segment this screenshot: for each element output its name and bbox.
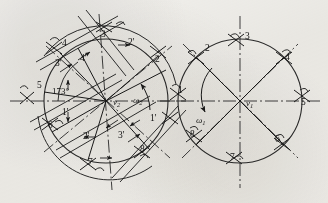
- left-label-1prime-right: 1': [150, 113, 157, 123]
- left-circle-group: 173° v2 ω2 1' 2' 2' 3 3' 3' 4 4' 5 6 7 8…: [10, 10, 186, 190]
- right-label-7: 7: [230, 152, 235, 162]
- right-label-6: 6: [275, 134, 280, 144]
- left-label-2prime-low: 2': [83, 131, 90, 141]
- left-omega-label: ω2: [133, 95, 143, 106]
- right-label-5: 5: [301, 97, 306, 107]
- left-label-8: 8: [140, 144, 145, 154]
- left-label-4prime: 4': [80, 53, 87, 63]
- left-secondary-arc-lower: [38, 116, 152, 180]
- left-label-6: 6: [48, 120, 53, 130]
- right-label-3: 3: [245, 31, 250, 41]
- right-label-2: 2: [205, 43, 210, 53]
- right-label-1: 1: [178, 85, 183, 95]
- left-label-2-right: 2: [155, 54, 160, 64]
- left-link-lines: [30, 10, 186, 182]
- right-circle-group: v1 ω1 1 2 3 4 5 6 7 8: [160, 16, 322, 188]
- left-label-7: 7: [88, 157, 93, 167]
- left-label-5: 5: [37, 80, 42, 90]
- right-label-4: 4: [285, 52, 290, 62]
- left-label-3prime-low: 3': [118, 130, 125, 140]
- left-label-3: 3: [101, 29, 106, 39]
- left-label-1prime: 1': [62, 107, 69, 117]
- left-center-velocity-label: v2: [113, 97, 121, 108]
- left-label-3prime-up: 3': [55, 58, 62, 68]
- right-label-8: 8: [190, 129, 195, 139]
- right-center-velocity-label: v1: [246, 98, 253, 109]
- left-label-4: 4: [62, 38, 67, 48]
- figure-canvas: 173° v2 ω2 1' 2' 2' 3 3' 3' 4 4' 5 6 7 8…: [0, 0, 328, 203]
- kinematic-diagram-svg: 173° v2 ω2 1' 2' 2' 3 3' 3' 4 4' 5 6 7 8…: [0, 0, 328, 203]
- right-omega-label: ω1: [196, 115, 206, 126]
- left-label-2prime-up: 2': [128, 37, 135, 47]
- right-omega-arrow: [201, 68, 212, 112]
- left-angle-label: 173°: [52, 86, 70, 96]
